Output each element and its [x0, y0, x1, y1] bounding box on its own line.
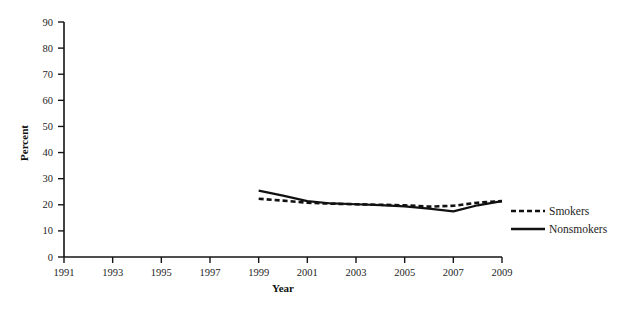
- x-tick-label: 1997: [200, 267, 221, 278]
- x-tick-label: 2001: [297, 267, 318, 278]
- x-axis-ticks: [64, 257, 502, 263]
- y-tick-label: 10: [43, 225, 54, 236]
- x-axis-title: Year: [272, 282, 294, 294]
- x-tick-label: 1999: [248, 267, 269, 278]
- y-tick-label: 20: [43, 199, 54, 210]
- y-tick-label: 90: [43, 17, 54, 28]
- y-axis-ticks: [58, 22, 64, 257]
- x-tick-label: 2007: [443, 267, 464, 278]
- line-chart-canvas: 0102030405060708090 19911993199519971999…: [0, 0, 630, 312]
- y-tick-label: 70: [43, 69, 54, 80]
- y-tick-label: 50: [43, 121, 54, 132]
- y-tick-label: 60: [43, 95, 54, 106]
- legend-label-nonsmokers: Nonsmokers: [549, 223, 608, 235]
- x-tick-label: 2009: [492, 267, 513, 278]
- y-tick-label: 30: [43, 173, 54, 184]
- y-axis-tick-labels: 0102030405060708090: [43, 17, 54, 263]
- y-axis-title: Percent: [18, 125, 30, 161]
- x-tick-label: 1995: [151, 267, 172, 278]
- data-series-group: [259, 191, 502, 212]
- x-tick-label: 1993: [102, 267, 123, 278]
- x-axis-tick-labels: 1991199319951997199920012003200520072009: [54, 267, 513, 278]
- legend-label-smokers: Smokers: [549, 205, 590, 217]
- y-tick-label: 40: [43, 147, 54, 158]
- y-tick-label: 80: [43, 43, 54, 54]
- chart-figure: 0102030405060708090 19911993199519971999…: [0, 0, 630, 312]
- y-tick-label: 0: [48, 252, 53, 263]
- chart-legend: SmokersNonsmokers: [511, 205, 608, 235]
- x-tick-label: 1991: [54, 267, 75, 278]
- x-tick-label: 2003: [346, 267, 367, 278]
- x-tick-label: 2005: [394, 267, 415, 278]
